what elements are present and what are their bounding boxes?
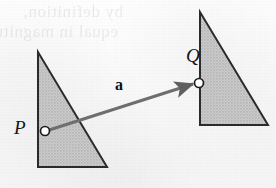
point-p-marker: [41, 127, 50, 136]
diagram-canvas: [0, 0, 276, 188]
vector-translation-figure: by definition, equal in magnitude P Q a: [0, 0, 276, 188]
left-triangle: [38, 52, 107, 167]
right-triangle: [200, 12, 268, 125]
point-p-label: P: [14, 117, 26, 139]
point-q-marker: [195, 79, 204, 88]
point-q-label: Q: [186, 45, 200, 67]
vector-a-label: a: [115, 76, 123, 94]
